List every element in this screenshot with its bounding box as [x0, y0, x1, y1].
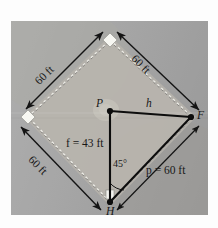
segment-label-h: h	[146, 98, 152, 110]
vertex-label-h: H	[106, 206, 114, 218]
baseball-diamond-figure: 60 ft 60 ft 60 ft P F H h f = 43 ft p = …	[0, 0, 218, 228]
segment-label-f: f = 43 ft	[66, 138, 103, 150]
angle-label-45: 45°	[113, 159, 127, 169]
vertex-label-p: P	[96, 98, 103, 110]
vertex-point-p	[107, 108, 113, 114]
segment-label-p: p = 60 ft	[146, 165, 185, 177]
figure-overlay	[0, 0, 218, 228]
vertex-point-f	[188, 114, 194, 120]
vertex-label-f: F	[197, 110, 204, 122]
